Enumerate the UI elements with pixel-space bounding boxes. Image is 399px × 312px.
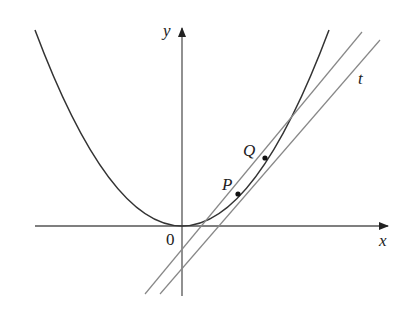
secant-tangent-diagram: y x 0 P Q t bbox=[0, 0, 399, 312]
tangent-line-t bbox=[160, 40, 380, 294]
secant-line-pq bbox=[145, 32, 362, 294]
x-axis-label: x bbox=[378, 231, 387, 250]
tangent-label: t bbox=[358, 69, 364, 88]
point-p-label: P bbox=[221, 175, 232, 194]
origin-label: 0 bbox=[166, 230, 175, 249]
point-q bbox=[262, 155, 267, 160]
point-q-label: Q bbox=[243, 141, 255, 160]
y-axis-label: y bbox=[161, 21, 171, 40]
point-p bbox=[235, 191, 240, 196]
